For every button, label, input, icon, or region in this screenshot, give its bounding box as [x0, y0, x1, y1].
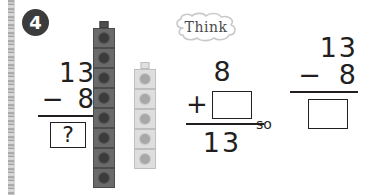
cube-stud-icon	[99, 73, 109, 83]
plus-sign-icon: +	[186, 91, 208, 117]
equation-right-minuend: 13	[320, 34, 358, 61]
cube-stud-icon	[99, 153, 109, 163]
cube	[93, 128, 115, 148]
cube-stud-icon	[140, 134, 150, 144]
equation-left-subtrahend-row: − 8	[38, 86, 96, 112]
cube	[134, 69, 156, 89]
cube-connector-nub-icon	[100, 21, 109, 28]
cube	[134, 149, 156, 169]
cube	[134, 109, 156, 129]
cube-stud-icon	[99, 173, 109, 183]
cube-stud-icon	[140, 114, 150, 124]
equation-middle-sum: 13	[186, 129, 264, 156]
cube-connector-nub-icon	[141, 62, 150, 69]
cube	[93, 148, 115, 168]
connector-word: so	[256, 116, 272, 132]
cube	[93, 168, 115, 188]
equation-middle-missing-addend-box[interactable]	[212, 91, 252, 119]
equation-right-minuend-row: 13	[290, 34, 358, 61]
cube	[134, 89, 156, 109]
cube	[93, 68, 115, 88]
equation-right-subtrahend: 8	[339, 61, 358, 88]
equation-left: 13 − 8 ?	[38, 60, 96, 148]
cube-stud-icon	[140, 94, 150, 104]
minus-sign-icon: −	[298, 61, 321, 88]
exercise-number-badge: 4	[22, 9, 49, 36]
equation-middle-missing-addend-row: +	[186, 91, 264, 119]
equation-left-rule	[38, 115, 96, 117]
cube-stud-icon	[99, 53, 109, 63]
minus-sign-icon: −	[42, 86, 64, 112]
equation-right: 13 − 8	[290, 34, 358, 129]
equation-middle-addend: 8	[186, 58, 264, 85]
cube-stud-icon	[140, 74, 150, 84]
equation-middle: 8 + 13	[186, 58, 264, 156]
cube-stud-icon	[99, 133, 109, 143]
light-cube-tower	[134, 62, 156, 169]
cube-stud-icon	[99, 33, 109, 43]
cube-stud-icon	[99, 93, 109, 103]
cube	[93, 108, 115, 128]
equation-right-subtrahend-row: − 8	[290, 61, 358, 88]
page-margin-rule	[14, 0, 15, 195]
think-thought-bubble: Think	[173, 12, 239, 42]
equation-left-answer-box[interactable]: ?	[50, 122, 86, 148]
equation-left-minuend: 13	[59, 60, 96, 86]
cube	[93, 28, 115, 48]
equation-middle-rule	[186, 123, 264, 125]
equation-right-answer-box[interactable]	[308, 99, 348, 129]
dark-cube-tower	[93, 21, 115, 188]
cube-stud-icon	[99, 113, 109, 123]
cube	[93, 48, 115, 68]
cube	[93, 88, 115, 108]
think-label: Think	[173, 12, 239, 42]
equation-left-minuend-row: 13	[38, 60, 96, 86]
cube-stud-icon	[140, 154, 150, 164]
cube	[134, 129, 156, 149]
equation-right-rule	[290, 91, 358, 93]
